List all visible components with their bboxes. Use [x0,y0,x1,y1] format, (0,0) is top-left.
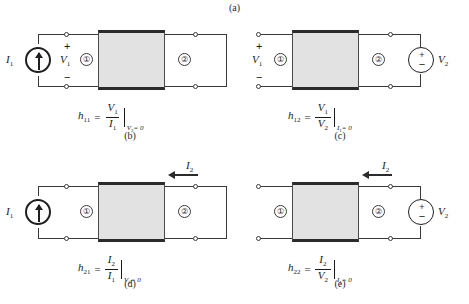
formula-numerator-h11: V1 [104,102,120,117]
caption-a: (a) [0,2,469,13]
terminal-left-top-d [64,184,69,189]
source-minus-icon: − [409,212,435,221]
label-i1-d: I1 [6,205,13,220]
wire-right-vert-bottom-c [420,74,421,87]
formula-numerator-h21: I2 [105,254,118,269]
terminal-right-bottom-d [193,236,198,241]
formula-eval-bar-h12 [334,108,335,127]
formula-symbol-h11: h11 [78,109,90,124]
panel-b: I1 + V1 − ① ② h11 = V1 I1 V2= 0 [0,22,235,132]
caption-e: (e) [250,278,430,289]
wire-right-vert-bottom-e [420,226,421,239]
formula-h12: h12 = V1 V2 I1= 0 [288,102,352,132]
wire-short-circuit-b [226,34,227,87]
panel-c: + V1 − ① ② + − V2 h12 = V1 V2 I1= 0 [236,22,469,132]
port-number-1-e: ① [274,205,287,218]
formula-numerator-h12: V1 [315,102,331,117]
voltage-source-c: + − [408,47,434,73]
wire-right-vert-top-e [420,186,421,199]
i2-arrow-shaft-icon [366,174,392,176]
voltage-source-e: + − [408,199,434,225]
port-number-2-c: ② [372,53,385,66]
h-parameter-figure: (a) I1 + V1 − ① ② h11 [0,0,469,304]
formula-symbol-h12: h12 [288,109,301,124]
terminal-left-bottom-b [64,84,69,89]
terminal-right-top-e [388,184,393,189]
source-minus-icon: − [409,60,435,69]
current-source-b [25,47,51,73]
formula-symbol-h22: h22 [288,261,301,276]
wire-bottom-left-c [260,86,292,87]
terminal-right-bottom-e [388,236,393,241]
current-i2-arrow-icon-e [362,171,394,179]
terminal-right-top-d [193,184,198,189]
caption-d: (d) [40,278,220,289]
label-i1-b: I1 [6,53,13,68]
polarity-plus-b: + [64,41,70,52]
wire-left-vert-top-b [38,34,39,44]
two-port-box-c [292,30,359,90]
current-source-d [25,199,51,225]
wire-top-left-e [260,186,292,187]
terminal-left-bottom-d [64,236,69,241]
wire-top-left-c [260,34,292,35]
terminal-right-top-c [388,32,393,37]
terminal-right-bottom-c [388,84,393,89]
terminal-left-bottom-e [256,236,261,241]
formula-eval-bar-h22 [334,260,335,279]
wire-left-vert-bottom-d [38,228,39,239]
two-port-box-d [98,182,165,242]
label-v1-c: V1 [252,53,262,68]
formula-equals-h22: = [305,263,311,275]
polarity-minus-b: − [64,72,70,83]
wire-bottom-left-e [260,238,292,239]
terminal-left-bottom-c [256,84,261,89]
polarity-minus-c: − [256,72,262,83]
port-number-1-b: ① [80,53,93,66]
two-port-box-b [98,30,165,90]
port-number-2-d: ② [178,205,191,218]
terminal-left-top-b [64,32,69,37]
formula-fraction-h11: V1 I1 [104,102,120,132]
port-number-2-b: ② [178,53,191,66]
label-v1-b: V1 [60,53,70,68]
formula-equals-h12: = [305,111,311,123]
formula-eval-bar-h11 [124,108,125,127]
terminal-right-bottom-b [193,84,198,89]
wire-left-vert-bottom-b [38,76,39,87]
label-v2-e: V2 [438,205,448,220]
i2-arrow-shaft-icon [172,174,198,176]
port-number-1-c: ① [274,53,287,66]
terminal-left-top-e [256,184,261,189]
current-i2-arrow-icon-d [168,171,200,179]
label-i2-d: I2 [186,159,193,174]
formula-fraction-h12: V1 V2 [315,102,331,132]
terminal-left-top-c [256,32,261,37]
wire-short-circuit-d [226,186,227,239]
wire-left-vert-top-d [38,186,39,196]
wire-right-vert-top-c [420,34,421,47]
panel-e: ① ② + − V2 I2 h22 = I2 V2 I1= 0 [236,160,469,278]
formula-numerator-h22: I2 [316,254,329,269]
label-v2-c: V2 [438,53,448,68]
panel-d: I1 ① ② I2 h21 = I2 I1 V2= 0 [0,160,235,278]
terminal-right-top-b [193,32,198,37]
two-port-box-e [292,182,359,242]
label-i2-e: I2 [382,159,389,174]
formula-eval-bar-h21 [121,260,122,279]
caption-c: (c) [250,130,430,141]
formula-equals-h21: = [95,263,101,275]
current-arrow-head-icon [35,52,43,58]
formula-equals-h11: = [94,111,100,123]
polarity-plus-c: + [256,41,262,52]
port-number-1-d: ① [80,205,93,218]
port-number-2-e: ② [372,205,385,218]
formula-symbol-h21: h21 [78,261,91,276]
caption-b: (b) [40,130,220,141]
current-arrow-head-icon [35,204,43,210]
formula-h11: h11 = V1 I1 V2= 0 [78,102,143,132]
